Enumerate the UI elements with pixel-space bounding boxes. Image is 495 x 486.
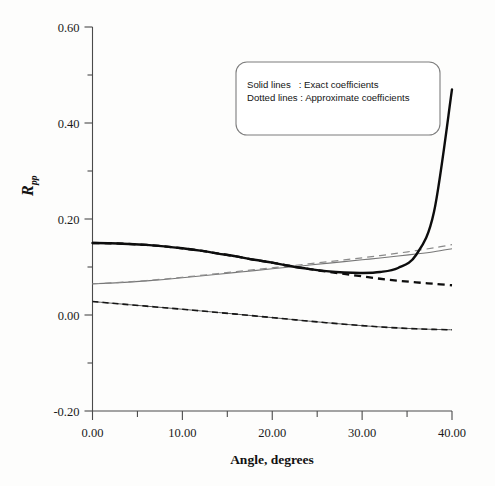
figure-container: 0.600.400.200.00-0.20 0.0010.0020.0030.0… [0,0,495,486]
x-tick-label-group: 0.0010.0020.0030.0040.00 [82,426,467,440]
legend-entry-dotted: Dotted lines : Approximate coefficients [247,92,410,103]
y-tick-group [85,27,93,411]
x-tick-label: 40.00 [438,426,466,440]
y-axis-title-base: R [19,185,36,197]
y-tick-label-group: 0.600.400.200.00-0.20 [53,21,79,419]
data-curve [93,302,453,330]
data-curve [93,245,453,284]
x-tick-group [93,411,453,420]
legend-entry-solid: Solid lines : Exact coefficients [247,79,379,90]
x-axis-title: Angle, degrees [230,452,314,467]
x-tick-label: 0.00 [82,426,104,440]
x-tick-label: 20.00 [258,426,286,440]
y-tick-label: 0.40 [58,117,80,131]
y-tick-label: 0.60 [58,21,80,35]
y-tick-label: 0.00 [58,309,80,323]
y-axis-title-subscript: pp [29,175,39,186]
y-tick-label: -0.20 [53,405,79,419]
data-curve [93,243,453,285]
data-curve [93,249,453,284]
chart-svg: 0.600.400.200.00-0.20 0.0010.0020.0030.0… [0,0,495,486]
x-tick-label: 10.00 [168,426,196,440]
y-axis-title: R pp [19,175,39,197]
x-tick-label: 30.00 [348,426,376,440]
legend: Solid lines : Exact coefficients Dotted … [236,62,440,135]
y-tick-label: 0.20 [58,213,80,227]
